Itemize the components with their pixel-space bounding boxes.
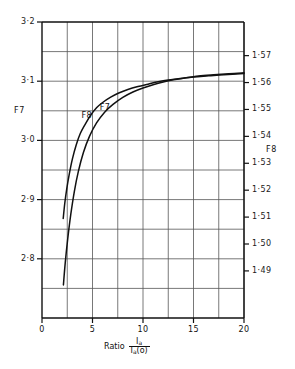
- y-tick-left-1: 3·1: [0, 76, 35, 85]
- y-axis-right-title: F8: [266, 145, 277, 154]
- chart-background: [0, 0, 295, 369]
- y-tick-right-0: 1·57: [252, 51, 271, 60]
- y-tick-left-0: 3·2: [0, 17, 35, 26]
- y-tick-right-5: 1·52: [252, 185, 271, 194]
- y-tick-left-4: 2·8: [0, 254, 35, 263]
- x-tick-2: 10: [133, 325, 153, 334]
- x-axis-title: Ratio Ia Ia(o): [104, 338, 150, 356]
- x-tick-3: 15: [184, 325, 204, 334]
- x-tick-1: 5: [83, 325, 103, 334]
- y-tick-right-3: 1·54: [252, 131, 271, 140]
- y-axis-left-title: F7: [14, 106, 25, 115]
- y-tick-right-8: 1·49: [252, 266, 271, 275]
- x-axis-title-numerator: Ia: [134, 338, 144, 346]
- y-tick-right-2: 1·55: [252, 104, 271, 113]
- x-axis-title-prefix: Ratio: [104, 342, 125, 351]
- y-tick-right-6: 1·51: [252, 212, 271, 221]
- curve-label-f7: F7: [100, 103, 111, 112]
- y-tick-left-2: 3·0: [0, 135, 35, 144]
- y-tick-right-4: 1·53: [252, 158, 271, 167]
- chart-canvas: [0, 0, 295, 369]
- y-tick-left-3: 2·9: [0, 195, 35, 204]
- x-tick-4: 20: [234, 325, 254, 334]
- x-axis-title-denominator: Ia(o): [129, 347, 150, 355]
- y-tick-right-1: 1·56: [252, 78, 271, 87]
- y-tick-right-7: 1·50: [252, 239, 271, 248]
- curve-label-f8: F8: [81, 111, 92, 120]
- x-axis-title-fraction: Ia Ia(o): [129, 338, 150, 356]
- x-tick-0: 0: [32, 325, 52, 334]
